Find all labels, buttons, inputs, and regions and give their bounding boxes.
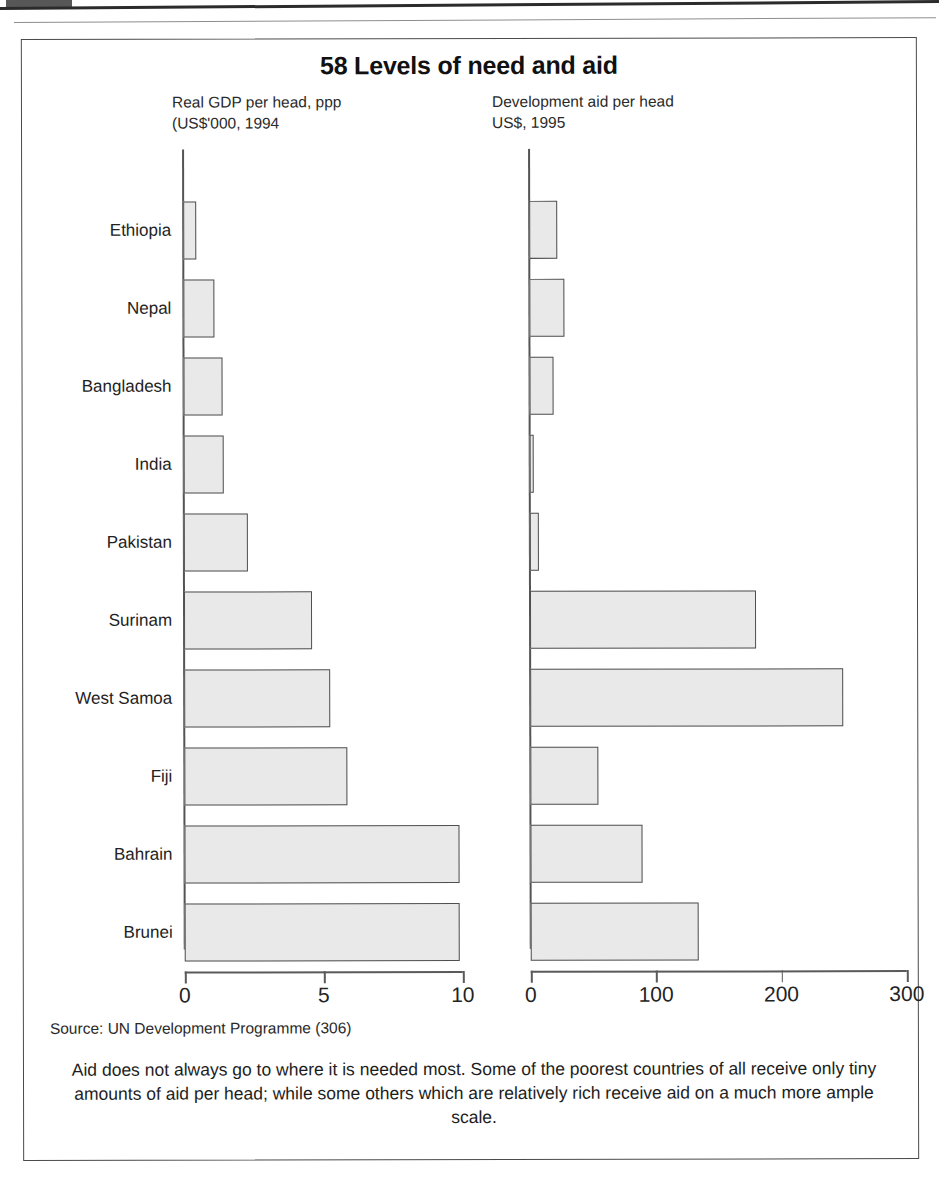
bar [530, 513, 539, 571]
bar-row [530, 668, 906, 727]
axis-tick-label: 10 [451, 983, 474, 1007]
chart-title: 58 Levels of need and aid [22, 50, 916, 81]
bar [184, 436, 224, 494]
axis-tick [463, 971, 465, 983]
axis-tick-label: 200 [764, 982, 799, 1006]
bar-row: Surinam [184, 591, 462, 650]
axis-tick-label: 300 [889, 982, 924, 1006]
figure-caption: Aid does not always go to where it is ne… [50, 1056, 898, 1130]
axis-tick-label: 5 [318, 983, 330, 1007]
bar-row [529, 356, 905, 415]
axis-tick-label: 0 [525, 983, 537, 1007]
bar [183, 280, 214, 338]
bar [530, 825, 642, 883]
bar-row [530, 824, 906, 883]
bar [530, 435, 534, 493]
category-label: Bangladesh [82, 377, 172, 397]
bar [530, 747, 598, 805]
bar-row [530, 512, 906, 571]
bar-row: Pakistan [184, 513, 462, 572]
bar-row [531, 902, 907, 961]
axis-tick-label: 100 [639, 983, 674, 1007]
bar [184, 513, 248, 571]
bar-row: Bangladesh [183, 357, 461, 416]
bar [529, 201, 557, 259]
bar-row: India [184, 435, 462, 494]
bar [184, 825, 459, 884]
bar [184, 591, 312, 649]
bar [530, 590, 756, 648]
category-label: India [135, 455, 172, 475]
category-label: Brunei [124, 923, 173, 943]
axis-tick [324, 971, 326, 983]
bar [183, 202, 196, 260]
bar-row: Fiji [184, 747, 462, 806]
bar-row: Bahrain [184, 825, 462, 884]
category-label: Ethiopia [110, 221, 171, 241]
right-chart-plot [492, 148, 920, 949]
bar-row [530, 746, 906, 805]
bar [530, 668, 843, 727]
right-chart-heading: Development aid per head US$, 1995 [492, 91, 674, 133]
bar-row: West Samoa [184, 669, 462, 728]
axis-tick [185, 972, 187, 984]
bar [184, 747, 347, 805]
axis-tick [781, 970, 783, 982]
right-chart-scale: 0100200300 [531, 956, 907, 991]
axis-tick [907, 970, 909, 982]
scan-artifact-outer-line [14, 17, 936, 23]
bar [529, 279, 564, 337]
axis-tick-label: 0 [179, 984, 191, 1008]
left-chart-bars: EthiopiaNepalBangladeshIndiaPakistanSuri… [22, 149, 494, 940]
category-label: Nepal [127, 299, 171, 319]
scan-artifact-rule [0, 0, 939, 10]
left-chart-plot: EthiopiaNepalBangladeshIndiaPakistanSuri… [22, 149, 494, 950]
axis-tick [656, 971, 658, 983]
scale-rule [531, 970, 907, 972]
bar-row [530, 590, 906, 649]
bar [183, 358, 222, 416]
category-label: Fiji [151, 767, 173, 787]
bar-row [530, 434, 906, 493]
bar [531, 903, 699, 961]
bar-row [529, 278, 905, 337]
bar-row: Ethiopia [183, 201, 461, 260]
axis-tick [531, 971, 533, 983]
left-chart-heading: Real GDP per head, ppp (US$'000, 1994 [172, 91, 342, 133]
category-label: Pakistan [107, 533, 172, 553]
category-label: West Samoa [75, 689, 172, 709]
bar-row: Nepal [183, 279, 461, 338]
bar-row [529, 200, 905, 259]
bar [184, 669, 330, 727]
source-note: Source: UN Development Programme (306) [50, 1019, 352, 1038]
bar-row: Brunei [185, 903, 463, 962]
right-chart-bars [492, 148, 920, 939]
figure-frame: 58 Levels of need and aid Real GDP per h… [21, 37, 919, 1161]
category-label: Surinam [109, 611, 172, 631]
left-chart-scale: 0510 [185, 957, 463, 992]
category-label: Bahrain [114, 845, 173, 865]
bar [529, 357, 553, 415]
bar [185, 903, 460, 962]
